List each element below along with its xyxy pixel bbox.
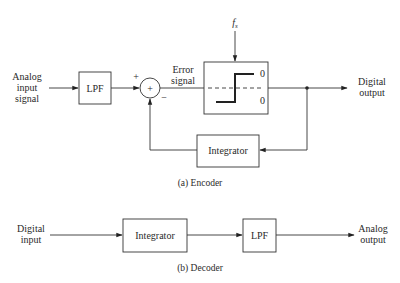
minus-sign: − <box>161 92 167 103</box>
svg-text:LPF: LPF <box>251 230 269 241</box>
svg-text:output: output <box>359 87 385 98</box>
svg-text:input: input <box>21 234 42 245</box>
delta-sigma-diagram: Analog input signal LPF + + − Error sign… <box>0 0 400 283</box>
svg-text:Integrator: Integrator <box>135 230 175 241</box>
svg-text:Analog: Analog <box>12 71 41 82</box>
decoder-integrator-block: Integrator <box>123 219 187 252</box>
encoder-input-label: Analog input signal <box>12 71 41 104</box>
svg-text:Error: Error <box>172 64 194 75</box>
svg-text:0: 0 <box>260 68 265 79</box>
integrator-to-summer-arrow <box>150 99 197 150</box>
decoder: Digital input Integrator LPF Analog outp… <box>17 219 388 274</box>
decoder-input-label: Digital input <box>17 223 45 245</box>
svg-text:LPF: LPF <box>86 83 104 94</box>
svg-text:Integrator: Integrator <box>208 145 248 156</box>
svg-text:signal: signal <box>171 75 195 86</box>
svg-text:+: + <box>147 83 153 94</box>
encoder: Analog input signal LPF + + − Error sign… <box>12 17 386 189</box>
quantizer-block: 0 0 <box>204 62 268 114</box>
decoder-caption: (b) Decoder <box>177 263 223 274</box>
svg-text:input: input <box>17 82 38 93</box>
svg-text:Digital: Digital <box>17 223 45 234</box>
svg-text:signal: signal <box>15 93 39 104</box>
encoder-integrator-block: Integrator <box>197 135 259 167</box>
clock-label: fs <box>232 17 238 30</box>
svg-text:Analog: Analog <box>358 223 387 234</box>
plus-sign: + <box>133 71 139 82</box>
error-signal-label: Error signal <box>171 64 195 86</box>
svg-text:0: 0 <box>260 95 265 106</box>
summing-junction: + <box>140 78 160 98</box>
encoder-caption: (a) Encoder <box>178 178 223 189</box>
decoder-output-label: Analog output <box>358 223 387 245</box>
svg-text:output: output <box>360 234 386 245</box>
encoder-lpf-block: LPF <box>79 72 111 104</box>
svg-text:Digital: Digital <box>358 76 386 87</box>
encoder-output-label: Digital output <box>358 76 386 98</box>
decoder-lpf-block: LPF <box>243 219 276 252</box>
